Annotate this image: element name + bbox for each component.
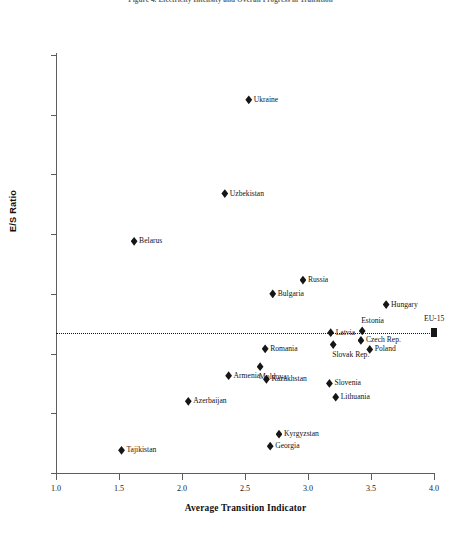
y-axis-tick [51, 294, 57, 295]
x-axis-tick-label: 1.5 [99, 484, 139, 493]
diamond-marker-icon [131, 237, 138, 246]
diamond-marker-icon [269, 289, 276, 298]
y-axis-tick [51, 115, 57, 116]
data-point-label: Czech Rep. [366, 336, 401, 344]
diamond-marker-icon [267, 442, 274, 451]
x-axis-tick [308, 474, 309, 480]
data-point-label: Azerbaijan [193, 397, 226, 405]
data-point-label: Romania [270, 345, 297, 353]
data-point-label: Hungary [391, 301, 418, 309]
diamond-marker-icon [327, 328, 334, 337]
x-axis-tick [56, 474, 57, 480]
data-point-label: Latvia [336, 329, 355, 337]
x-axis-tick-label: 4.0 [414, 484, 454, 493]
x-axis-title: Average Transition Indicator [56, 503, 435, 513]
x-axis-tick [245, 474, 246, 480]
y-axis-tick [51, 234, 57, 235]
data-point-label: Armenia [234, 372, 261, 380]
y-axis-tick [51, 354, 57, 355]
data-point-label: Estonia [361, 317, 384, 325]
y-axis-tick [51, 413, 57, 414]
diamond-marker-icon [225, 371, 232, 380]
diamond-marker-icon [262, 344, 269, 353]
data-point-label: Bulgaria [278, 290, 304, 298]
data-point-label: Belarus [139, 237, 162, 245]
square-marker-icon [431, 328, 437, 336]
data-point-label: Slovenia [334, 379, 361, 387]
x-axis-tick-label: 3.0 [288, 484, 328, 493]
scatter-chart-figure: Figure 4. Electricity Intensity and Over… [0, 0, 461, 542]
data-point-label: Tajikistan [127, 446, 157, 454]
x-axis-tick [119, 474, 120, 480]
diamond-marker-icon [326, 379, 333, 388]
data-point-label: Russia [308, 276, 328, 284]
diamond-marker-icon [330, 340, 337, 349]
x-axis-tick-label: 2.0 [162, 484, 202, 493]
x-axis-tick [371, 474, 372, 480]
diamond-marker-icon [245, 95, 252, 104]
data-point-label: Kazakhstan [271, 375, 306, 383]
y-axis-tick [51, 174, 57, 175]
diamond-marker-icon [300, 276, 307, 285]
diamond-marker-icon [358, 336, 365, 345]
x-axis-tick-label: 3.5 [351, 484, 391, 493]
data-point-label: Poland [375, 345, 396, 353]
diamond-marker-icon [257, 362, 264, 371]
diamond-marker-icon [118, 446, 125, 455]
y-axis-tick [51, 55, 57, 56]
eu15-reference-label: EU-15 [424, 315, 444, 323]
y-axis-title: E/S Ratio [8, 190, 18, 232]
diamond-marker-icon [185, 397, 192, 406]
x-axis-tick-label: 1.0 [36, 484, 76, 493]
chart-title: Figure 4. Electricity Intensity and Over… [0, 0, 461, 5]
data-point-label: Lithuania [341, 393, 370, 401]
data-point-label: Georgia [275, 442, 299, 450]
x-axis-tick [434, 474, 435, 480]
diamond-marker-icon [276, 430, 283, 439]
x-axis-tick [182, 474, 183, 480]
diamond-marker-icon [221, 189, 228, 198]
diamond-marker-icon [359, 326, 366, 335]
data-point-label: Ukraine [254, 96, 278, 104]
diamond-marker-icon [383, 300, 390, 309]
data-point-label: Uzbekistan [230, 190, 264, 198]
data-point-label: Kyrgyzstan [284, 430, 319, 438]
data-point-label: Slovak Rep. [332, 351, 369, 359]
x-axis-tick-label: 2.5 [225, 484, 265, 493]
y-axis-line [56, 53, 57, 474]
eu15-reference-line [56, 333, 434, 334]
diamond-marker-icon [332, 393, 339, 402]
